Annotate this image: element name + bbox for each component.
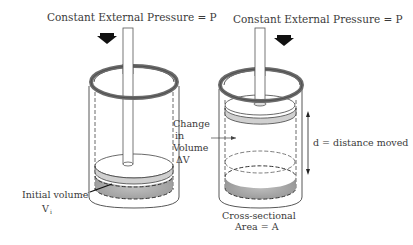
right-cylinder-group: Constant External Pressure = P — [219, 13, 408, 232]
svg-text:Volume: Volume — [172, 142, 209, 153]
distance-label: d = distance moved — [313, 137, 408, 148]
area-label-line2: Area = A — [234, 221, 279, 232]
right-gas-volume — [225, 166, 296, 199]
change-volume-arrow-icon — [211, 136, 236, 140]
svg-text:Change: Change — [173, 118, 210, 129]
initial-volume-subscript: i — [50, 208, 52, 215]
change-in-volume-label: Change in Volume ΔV — [172, 118, 210, 165]
initial-volume-symbol: V — [41, 203, 49, 214]
svg-text:in: in — [175, 130, 184, 141]
left-pressure-arrow-icon — [97, 33, 117, 44]
left-piston — [95, 154, 173, 187]
left-title: Constant External Pressure = P — [47, 11, 217, 23]
right-title: Constant External Pressure = P — [233, 13, 403, 25]
area-label-line1: Cross-sectional — [222, 210, 296, 221]
right-cylinder — [219, 28, 302, 208]
piston-diagram: Constant External Pressure = P — [0, 0, 413, 245]
right-pressure-arrow-icon — [274, 35, 294, 46]
left-cylinder-group: Constant External Pressure = P — [22, 11, 217, 215]
initial-volume-label: Initial volume — [22, 189, 89, 200]
distance-arrow-icon — [306, 111, 310, 175]
left-top-ring — [91, 64, 177, 98]
svg-text:ΔV: ΔV — [176, 154, 190, 165]
left-cylinder — [89, 28, 179, 208]
